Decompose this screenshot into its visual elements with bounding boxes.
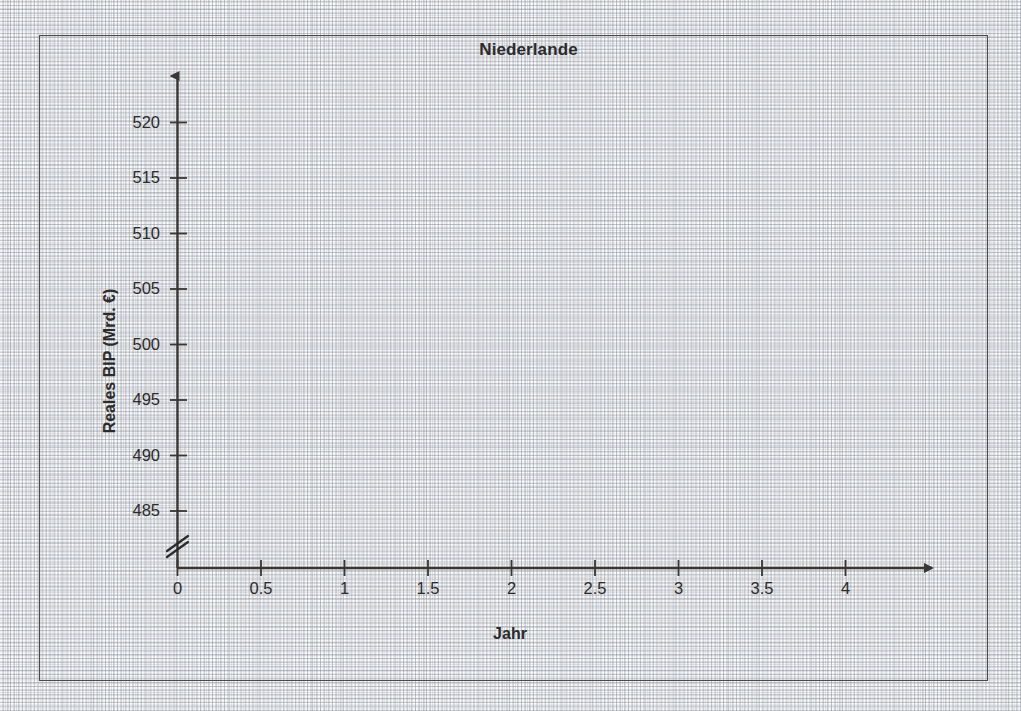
y-tick-label: 495 bbox=[100, 391, 160, 408]
x-axis-title: Jahr bbox=[430, 625, 590, 643]
y-tick-label: 505 bbox=[100, 280, 160, 297]
x-tick-label: 1 bbox=[315, 580, 375, 597]
chart-plot-area bbox=[0, 0, 1021, 711]
y-axis-title: Reales BIP (Mrd. €) bbox=[101, 211, 119, 511]
y-tick-label: 485 bbox=[100, 502, 160, 519]
x-tick-label: 3 bbox=[649, 580, 709, 597]
x-tick-label: 1.5 bbox=[398, 580, 458, 597]
y-tick-label: 515 bbox=[100, 169, 160, 186]
x-tick-label: 0.5 bbox=[231, 580, 291, 597]
x-tick-label: 2 bbox=[482, 580, 542, 597]
y-tick-label: 510 bbox=[100, 225, 160, 242]
x-tick-label: 3.5 bbox=[732, 580, 792, 597]
chart-title-text: Niederlande bbox=[479, 40, 577, 59]
x-tick-label: 4 bbox=[816, 580, 876, 597]
x-tick-label: 0 bbox=[148, 580, 208, 597]
y-tick-label: 500 bbox=[100, 336, 160, 353]
chart-title: Niederlande bbox=[0, 40, 1021, 60]
x-tick-label: 2.5 bbox=[565, 580, 625, 597]
y-tick-label: 520 bbox=[100, 114, 160, 131]
y-tick-label: 490 bbox=[100, 447, 160, 464]
